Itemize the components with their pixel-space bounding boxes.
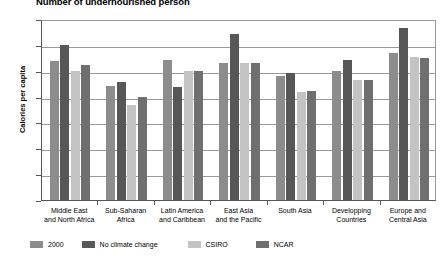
bar: [364, 80, 373, 200]
bar: [138, 97, 147, 200]
x-axis-label-line: Europe and: [370, 206, 446, 215]
bar-group: [98, 21, 154, 200]
bar: [81, 65, 90, 200]
x-tick-mark: [267, 201, 268, 205]
bar-group: [42, 21, 98, 200]
bar: [219, 63, 228, 200]
bar: [71, 71, 80, 200]
plot-area: [41, 20, 436, 201]
bar: [240, 63, 249, 200]
bar-group: [268, 21, 324, 200]
x-tick-mark: [97, 201, 98, 205]
bar: [50, 61, 59, 200]
x-tick-mark: [323, 201, 324, 205]
legend-label: NCAR: [274, 241, 294, 248]
chart-root: Number of undernourished person Calories…: [0, 0, 446, 259]
legend-label: CSIRO: [206, 241, 228, 248]
bar: [343, 60, 352, 200]
bar: [410, 57, 419, 200]
bar: [184, 71, 193, 200]
x-axis-label-line: and the Pacific: [201, 215, 277, 224]
bar: [60, 45, 69, 200]
bar: [389, 53, 398, 200]
bar: [332, 71, 341, 200]
legend-swatch: [30, 241, 43, 248]
legend-swatch: [188, 241, 201, 248]
bar: [276, 76, 285, 200]
bar: [353, 80, 362, 200]
bar-group: [211, 21, 267, 200]
y-tick-mark-0: [36, 201, 41, 202]
bar: [163, 60, 172, 200]
x-axis-label: Europe andCentral Asia: [370, 206, 446, 224]
x-tick-mark: [380, 201, 381, 205]
legend-swatch: [256, 241, 269, 248]
bar: [194, 71, 203, 200]
bar: [251, 63, 260, 200]
bar: [307, 91, 316, 200]
legend-swatch: [82, 241, 95, 248]
legend-label: No climate change: [100, 241, 158, 248]
bar: [230, 34, 239, 200]
bar: [297, 92, 306, 200]
legend-item[interactable]: NCAR: [256, 241, 294, 248]
bar: [173, 87, 182, 200]
legend-item[interactable]: No climate change: [82, 241, 158, 248]
bar-group: [324, 21, 380, 200]
bar: [399, 28, 408, 200]
bar: [106, 86, 115, 200]
bar-group: [381, 21, 437, 200]
bar: [286, 73, 295, 200]
bar-group: [155, 21, 211, 200]
y-axis-title: Calories per capita: [18, 45, 27, 155]
chart-title: Number of undernourished person: [36, 0, 436, 7]
chart-legend: 2000No climate changeCSIRONCAR: [30, 241, 294, 248]
legend-label: 2000: [48, 241, 64, 248]
x-axis-label-line: Central Asia: [370, 215, 446, 224]
legend-item[interactable]: CSIRO: [188, 241, 228, 248]
bar: [420, 58, 429, 200]
bar: [117, 82, 126, 200]
x-tick-mark: [154, 201, 155, 205]
legend-item[interactable]: 2000: [30, 241, 64, 248]
x-tick-mark: [210, 201, 211, 205]
bar: [127, 105, 136, 200]
